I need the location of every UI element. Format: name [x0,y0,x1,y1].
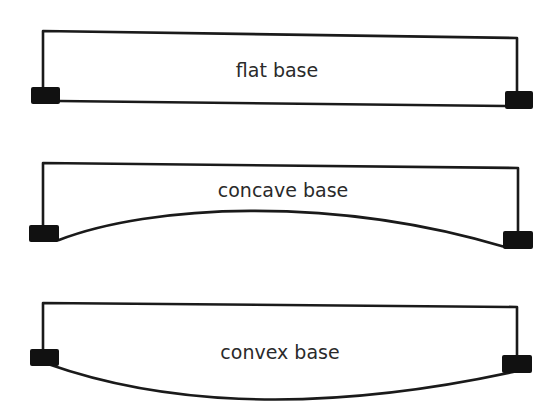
right-support-pad [502,355,532,373]
concave-base-outline [43,163,518,247]
panel-concave-base: concave base [29,163,533,249]
left-support-pad [31,87,60,104]
right-support-pad [503,231,533,249]
panel-convex-base: convex base [30,303,532,400]
concave-base-label: concave base [218,179,348,201]
right-support-pad [505,91,533,109]
convex-base-label: convex base [220,341,339,363]
left-support-pad [30,349,59,366]
base-shapes-diagram: flat base concave base convex base [0,0,556,418]
flat-base-label: flat base [236,59,318,81]
left-support-pad [29,225,59,242]
panel-flat-base: flat base [31,31,533,109]
